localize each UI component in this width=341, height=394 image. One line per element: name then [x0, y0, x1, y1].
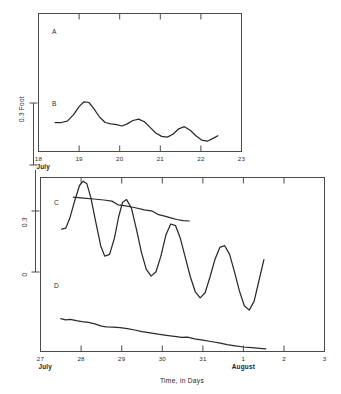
lower-xtick-label-2: 29: [118, 355, 126, 362]
lower-xtick-label-5: 1: [242, 355, 246, 362]
lower-xtick-label-6: 2: [282, 355, 286, 362]
lower-panel-ticks: [81, 178, 284, 352]
lower-panel-xaxis-labels: 27 28 29 30 31 1 2 3 July August Time, i…: [37, 355, 327, 385]
curve-b-label: B: [52, 100, 57, 107]
lower-ytick-label-1: 0: [21, 272, 28, 276]
lower-xtick-label-3: 30: [159, 355, 167, 362]
curve-a: [55, 102, 218, 141]
upper-xtick-label-5: 23: [238, 155, 246, 162]
upper-panel: A B: [39, 14, 242, 222]
lower-month-label-july: July: [39, 363, 53, 371]
lower-month-label-august: August: [232, 363, 256, 371]
lower-panel-frame: [41, 178, 325, 352]
lower-xtick-label-4: 31: [199, 355, 207, 362]
upper-xtick-label-2: 20: [116, 155, 124, 162]
hydrograph-figure: A B 18 19 20 21 22 23 July 0.3 Foot: [0, 0, 341, 394]
figure-root: A B 18 19 20 21 22 23 July 0.3 Foot: [0, 0, 341, 394]
upper-xtick-label-4: 22: [197, 155, 205, 162]
upper-panel-frame: [39, 14, 242, 152]
curve-c: [62, 181, 264, 310]
upper-xtick-label-0: 18: [35, 155, 43, 162]
lower-xtick-label-7: 3: [323, 355, 327, 362]
upper-month-label-july: July: [37, 163, 51, 171]
upper-xtick-label-1: 19: [75, 155, 83, 162]
lower-panel: C D: [41, 178, 325, 352]
upper-xtick-label-3: 21: [157, 155, 165, 162]
curve-a-label: A: [52, 28, 57, 35]
lower-xtick-label-1: 28: [77, 355, 85, 362]
curve-d-label: D: [54, 282, 59, 289]
upper-yaxis-title: 0.3 Foot: [18, 96, 25, 122]
x-axis-title: Time, in Days: [160, 377, 204, 385]
lower-ytick-label-0: 0.3: [21, 217, 28, 227]
lower-xtick-label-0: 27: [37, 355, 45, 362]
upper-panel-xaxis-labels: 18 19 20 21 22 23 July: [35, 155, 246, 172]
curve-d: [61, 319, 266, 349]
lower-y-scalebar: 0.3 0: [21, 170, 40, 276]
curve-c-label: C: [54, 199, 59, 206]
upper-panel-ticks: [79, 14, 201, 152]
